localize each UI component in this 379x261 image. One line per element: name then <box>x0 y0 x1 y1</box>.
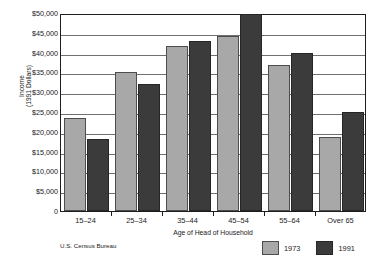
legend-label: 1973 <box>284 244 300 253</box>
y-axis-tick-label: $40,000 <box>32 50 58 57</box>
bar <box>115 72 137 211</box>
legend-item[interactable]: 1973 <box>262 241 316 255</box>
y-axis-tick-label: $15,000 <box>32 149 58 156</box>
x-axis-tick-label: 55–64 <box>279 216 300 225</box>
bar <box>217 36 239 211</box>
chart-legend: 19731991 <box>262 239 371 257</box>
bar <box>319 137 341 211</box>
bar <box>342 112 364 211</box>
income-by-age-bar-chart: Income (1991 Dollars) 0$5,000$10,000$15,… <box>0 0 379 261</box>
bar <box>64 118 86 211</box>
y-axis-tick-label: $50,000 <box>32 10 58 17</box>
x-axis-tick-label: 25–34 <box>126 216 147 225</box>
y-axis-tick-label: 0 <box>54 208 58 215</box>
y-axis-tick-label: $30,000 <box>32 90 58 97</box>
bar <box>268 65 290 211</box>
y-axis-tick-label: $10,000 <box>32 169 58 176</box>
x-axis-tick-label: 15–24 <box>75 216 96 225</box>
bar <box>240 14 262 211</box>
legend-swatch-1991 <box>316 241 333 255</box>
bar <box>291 53 313 211</box>
bar <box>166 46 188 211</box>
x-axis-tick-label: Over 65 <box>327 216 353 225</box>
y-axis-tick-label: $25,000 <box>32 109 58 116</box>
source-note: U.S. Census Bureau <box>60 242 116 250</box>
bar <box>138 84 160 212</box>
x-axis-tick-label: 35–44 <box>177 216 198 225</box>
plot-area <box>60 14 366 212</box>
x-axis-tick-label: 45–54 <box>228 216 249 225</box>
y-axis-tick-label: $35,000 <box>32 70 58 77</box>
y-axis-tick-label: $5,000 <box>36 189 58 196</box>
y-axis-tick-label: $45,000 <box>32 30 58 37</box>
y-axis-tick-label: $20,000 <box>32 129 58 136</box>
legend-swatch-1973 <box>262 241 279 255</box>
legend-item[interactable]: 1991 <box>316 241 370 255</box>
x-axis-tick-labels: 15–2425–3435–4445–5455–64Over 65 <box>60 216 366 228</box>
bar-series-container <box>61 15 365 211</box>
bar <box>189 41 211 211</box>
y-axis-tick-labels: 0$5,000$10,000$15,000$20,000$25,000$30,0… <box>16 0 58 261</box>
bar <box>87 139 109 211</box>
legend-label: 1991 <box>338 244 354 253</box>
x-axis-title: Age of Head of Household <box>60 228 366 237</box>
